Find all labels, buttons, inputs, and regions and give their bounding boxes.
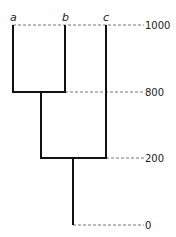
- tree-branches: [12, 25, 107, 225]
- leaf-label-c: c: [103, 11, 109, 24]
- level-label-1000: 1000: [145, 20, 170, 31]
- leaf-label-a: a: [10, 11, 17, 24]
- level-label-800: 800: [145, 87, 164, 98]
- dendrogram: a b c 1000 800 200 0: [0, 0, 176, 237]
- level-label-200: 200: [145, 153, 164, 164]
- level-label-0: 0: [145, 220, 151, 231]
- leaf-label-b: b: [62, 11, 69, 24]
